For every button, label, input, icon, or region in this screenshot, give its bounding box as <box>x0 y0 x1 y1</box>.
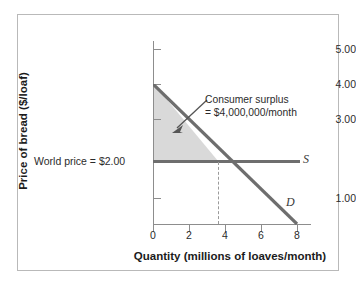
world-price-label: World price = $2.00 <box>34 155 125 167</box>
supply-world-price-curve <box>153 160 300 163</box>
x-tick-label-8: 8 <box>285 230 309 241</box>
supply-curve-label: S <box>303 152 309 167</box>
y-tick-3 <box>154 119 161 120</box>
consumer-surplus-annotation: Consumer surplus = $4,000,000/month <box>205 94 297 119</box>
x-tick-label-2: 2 <box>177 230 201 241</box>
x-tick-label-6: 6 <box>249 230 273 241</box>
figure-container: 5.00 4.00 3.00 1.00 World price = $2.00 … <box>0 0 356 285</box>
demand-curve-label: D <box>286 195 295 210</box>
annotation-arrow-icon <box>166 98 208 138</box>
y-tick-4 <box>154 84 161 85</box>
x-axis-title: Quantity (millions of loaves/month) <box>120 250 340 262</box>
y-tick-1 <box>154 198 161 199</box>
y-tick-label-5: 5.00 <box>208 44 356 55</box>
world-price-value: $2.00 <box>99 155 125 167</box>
y-tick-label-4: 4.00 <box>208 79 356 90</box>
x-axis-line <box>153 224 311 225</box>
annotation-line-2: = $4,000,000/month <box>205 107 297 120</box>
annotation-line-1: Consumer surplus <box>205 94 297 107</box>
y-axis-title: Price of bread ($/loaf) <box>17 46 29 216</box>
equilibrium-quantity-dashed-line <box>218 162 219 224</box>
y-tick-label-1: 1.00 <box>208 193 356 204</box>
plot-area: 5.00 4.00 3.00 1.00 World price = $2.00 … <box>0 0 356 285</box>
x-tick-label-4: 4 <box>213 230 237 241</box>
x-tick-label-0: 0 <box>141 230 165 241</box>
world-price-text: World price = <box>34 155 96 167</box>
y-tick-5 <box>154 49 161 50</box>
